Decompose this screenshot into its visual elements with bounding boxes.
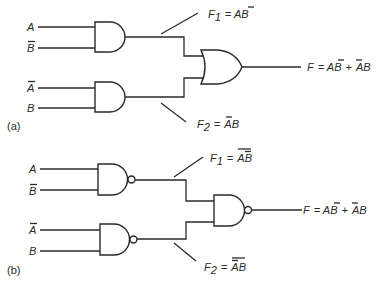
nand-gate-2 <box>100 224 130 255</box>
wire-f2 <box>125 78 204 97</box>
f1-label: F1=AB <box>210 152 252 167</box>
wire-f1 <box>125 37 204 56</box>
input-a-label: A <box>28 163 36 175</box>
wire-f2 <box>137 222 214 239</box>
f2-label: F2=AB <box>204 261 246 276</box>
f2-pointer <box>161 103 186 122</box>
f1-pointer <box>161 13 198 34</box>
or-gate <box>201 50 242 84</box>
input-b-bar-label: B <box>27 42 34 54</box>
input-a-bar-label: A <box>26 82 34 94</box>
f1-pointer <box>174 157 203 177</box>
caption-a: (a) <box>7 120 20 132</box>
output-f-label: F= AB+AB <box>303 204 367 216</box>
inversion-bubble <box>245 207 252 214</box>
f2-label: F2=AB <box>197 118 239 133</box>
f1-label: F1= AB <box>208 8 249 23</box>
nand-gate-3 <box>214 195 244 226</box>
and-gate-2 <box>95 82 125 112</box>
and-gate-1 <box>95 22 125 52</box>
input-b-label: B <box>27 102 34 114</box>
input-a-label: A <box>26 21 34 33</box>
wire-f1 <box>135 180 214 201</box>
output-f-label: F= AB+AB <box>307 61 371 73</box>
input-b-label: B <box>29 245 36 257</box>
part-b: A B A B F1=AB F2=AB <box>7 149 367 276</box>
part-a: A B A B F1= AB F2=AB F= AB+AB <box>7 7 371 133</box>
inversion-bubble <box>130 236 137 243</box>
nand-gate-1 <box>98 164 128 195</box>
input-b-bar-label: B <box>29 185 36 197</box>
circuit-diagram: A B A B F1= AB F2=AB F= AB+AB <box>0 0 377 287</box>
input-a-bar-label: A <box>28 224 36 236</box>
caption-b: (b) <box>7 264 20 276</box>
f2-pointer <box>174 243 196 261</box>
inversion-bubble <box>128 176 135 183</box>
